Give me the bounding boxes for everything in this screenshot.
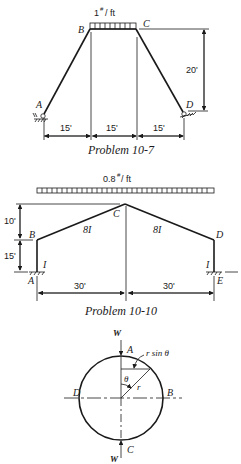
node-e: E: [216, 275, 223, 286]
diagram-canvas: 1 # / ft B C A D: [0, 0, 241, 464]
caption-problem-10-10: Problem 10-10: [84, 304, 157, 318]
node-a: A: [126, 344, 134, 355]
span-1-label: 30': [74, 281, 86, 291]
load-value: 1: [94, 8, 99, 18]
member-label-col-left: I: [42, 259, 47, 270]
node-d: D: [72, 387, 81, 398]
node-d: D: [215, 229, 224, 240]
dim-col-height-label: 15': [4, 251, 16, 261]
figure-problem-10-10: 0.8 # / ft: [4, 172, 238, 318]
caption-problem-10-7: Problem 10-7: [87, 143, 155, 157]
member-label-right: 8I: [153, 224, 162, 235]
node-a: A: [27, 275, 35, 286]
label-rsin: r sin θ: [146, 348, 170, 358]
node-a: A: [35, 99, 43, 110]
node-b: B: [78, 24, 84, 35]
label-theta: θ: [124, 374, 129, 384]
load-unit: / ft: [105, 8, 116, 18]
label-radius: r: [137, 382, 141, 392]
member-label-left: 8I: [83, 224, 92, 235]
rafter-cd: [125, 204, 214, 240]
node-b: B: [29, 229, 35, 240]
pin-support-a-icon: [33, 113, 48, 122]
node-d: D: [185, 99, 194, 110]
node-c: C: [127, 444, 134, 455]
node-c: C: [143, 18, 150, 29]
rafter-bc: [37, 204, 125, 240]
span-3-label: 15': [153, 123, 165, 133]
span-1-label: 15': [60, 123, 72, 133]
node-b: B: [167, 387, 173, 398]
member-ab: [44, 29, 90, 114]
span-2-label: 15': [106, 123, 118, 133]
member-label-col-right: I: [205, 259, 210, 270]
distributed-load-bc: [90, 23, 136, 29]
load-unit: / ft: [121, 174, 132, 184]
pin-support-d-icon: [180, 112, 196, 118]
dim-rise-label: 10': [4, 216, 16, 226]
figure-problem-10-7: 1 # / ft B C A D: [33, 6, 209, 157]
distributed-load-full: [37, 188, 214, 193]
figure-ring: W W A B C D r sin θ θ r: [64, 328, 182, 464]
load-w-top: W: [113, 328, 122, 338]
span-2-label: 30': [163, 281, 175, 291]
node-c: C: [113, 208, 120, 219]
load-value: 0.8: [103, 174, 116, 184]
load-w-bottom: W: [110, 454, 119, 464]
member-cd: [136, 29, 183, 112]
load-superscript: #: [100, 6, 104, 12]
dim-height-label: 20': [186, 65, 198, 75]
